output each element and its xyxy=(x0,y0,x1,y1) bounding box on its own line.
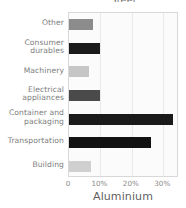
category-label-line: packaging xyxy=(0,118,64,127)
bar xyxy=(69,66,89,77)
category-label: Electricalappliances xyxy=(0,86,64,103)
bar-row xyxy=(69,90,177,101)
category-label-line: Other xyxy=(0,19,64,28)
category-label-line: appliances xyxy=(0,94,64,103)
category-label-line: Machinery xyxy=(0,67,64,76)
category-label: Building xyxy=(0,161,64,170)
bar xyxy=(69,114,173,125)
bar xyxy=(69,43,100,54)
bar xyxy=(69,161,91,172)
bar-series xyxy=(69,13,177,176)
category-label-line: Transportation xyxy=(0,137,64,146)
plot-area xyxy=(68,12,178,177)
category-label: Other xyxy=(0,19,64,28)
category-label: Machinery xyxy=(0,67,64,76)
category-axis-labels: OtherConsumerdurablesMachineryElectrical… xyxy=(0,12,64,177)
x-axis-ticks: 010%20%30% xyxy=(68,179,178,189)
bar-row xyxy=(69,66,177,77)
chart-title: Steel xyxy=(68,0,178,2)
chart-container: Steel OtherConsumerdurablesMachineryElec… xyxy=(0,0,186,208)
bar-row xyxy=(69,19,177,30)
x-tick-label: 20% xyxy=(123,179,139,188)
bar-row xyxy=(69,161,177,172)
category-label: Container andpackaging xyxy=(0,109,64,126)
category-label: Transportation xyxy=(0,137,64,146)
bar-row xyxy=(69,43,177,54)
x-tick-label: 0 xyxy=(66,179,71,188)
x-tick-label: 30% xyxy=(154,179,170,188)
category-label-line: durables xyxy=(0,47,64,56)
bar-row xyxy=(69,137,177,148)
bar-row xyxy=(69,114,177,125)
category-label-line: Building xyxy=(0,161,64,170)
bar xyxy=(69,90,100,101)
category-label: Consumerdurables xyxy=(0,39,64,56)
bar xyxy=(69,19,93,30)
bar xyxy=(69,137,151,148)
x-tick-label: 10% xyxy=(91,179,107,188)
x-axis-label: Aluminium xyxy=(68,190,178,203)
